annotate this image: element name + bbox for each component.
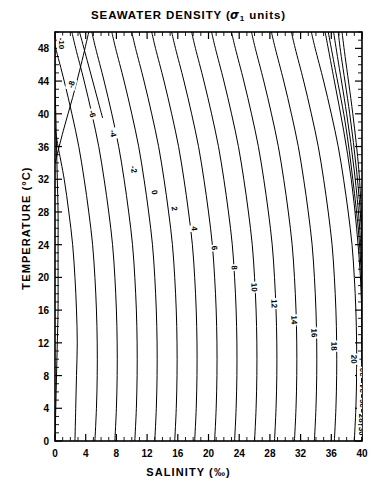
contour-labels: -10-8-6-4-2024681012141618202224262830: [57, 36, 367, 437]
contour-line: [152, 32, 197, 441]
contour-label: 28: [357, 414, 366, 424]
contour-line: [55, 32, 89, 163]
plot-frame: [55, 32, 362, 441]
contour-label: -10: [57, 38, 66, 50]
contour-line: [72, 32, 117, 441]
contour-label: 12: [269, 299, 278, 309]
contour-line: [251, 32, 296, 441]
contour-line: [291, 32, 336, 441]
contour-label: 20: [349, 355, 358, 365]
contour-lines: [55, 32, 362, 441]
contour-line: [112, 32, 157, 441]
contour-line: [172, 32, 217, 441]
contour-line: [232, 32, 277, 441]
plot-area: -10-8-6-4-2024681012141618202224262830: [0, 0, 377, 491]
seawater-density-chart: SEAWATER DENSITY (σ1 units) SALINITY (‰)…: [0, 0, 377, 491]
contour-line: [212, 32, 257, 441]
contour-label: 18: [329, 342, 338, 352]
contour-label: 16: [309, 329, 318, 339]
contour-line: [92, 32, 137, 441]
contour-label: 14: [289, 315, 298, 325]
contour-label: 30: [357, 427, 366, 437]
contour-line: [271, 32, 316, 441]
axis-ticks: [55, 32, 362, 441]
contour-label: 10: [249, 283, 259, 293]
contour-line: [192, 32, 237, 441]
contour-line: [132, 32, 177, 441]
